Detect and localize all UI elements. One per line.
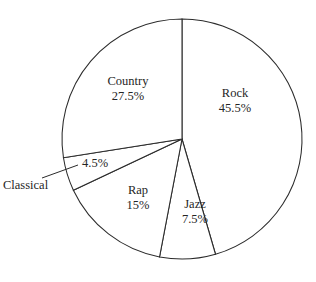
pie-label-rock: Rock 45.5%	[204, 86, 266, 116]
pie-label-rap-percent: 15%	[110, 198, 166, 213]
pie-label-jazz-name: Jazz	[168, 197, 222, 212]
pie-label-rock-name: Rock	[204, 86, 266, 101]
pie-label-jazz: Jazz 7.5%	[168, 197, 222, 227]
pie-label-classical-name-outside: Classical	[3, 178, 73, 193]
pie-label-rap: Rap 15%	[110, 183, 166, 213]
pie-label-country-name: Country	[92, 74, 164, 89]
pie-label-country-percent: 27.5%	[92, 89, 164, 104]
pie-label-rock-percent: 45.5%	[204, 101, 266, 116]
pie-chart: Country 27.5% Rock 45.5% Rap 15% Jazz 7.…	[0, 0, 316, 282]
pie-label-rap-name: Rap	[110, 183, 166, 198]
pie-label-jazz-percent: 7.5%	[168, 212, 222, 227]
pie-label-country: Country 27.5%	[92, 74, 164, 104]
pie-chart-canvas	[0, 0, 316, 282]
pie-label-classical-percent: 4.5%	[82, 156, 126, 171]
